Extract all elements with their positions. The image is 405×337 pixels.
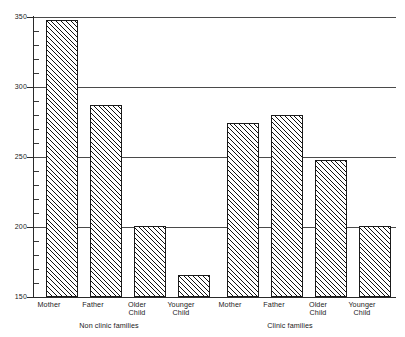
y-tick-label-wrap-250: 250 (0, 153, 27, 160)
y-tick-label-wrap-200: 200 (0, 223, 27, 230)
y-tick-label-250: 250 (3, 153, 27, 160)
x-label-clinic-younger-child: YoungerChild (337, 301, 387, 318)
y-tick-label-150: 150 (3, 293, 27, 300)
y-tick-label-wrap-300: 300 (0, 83, 27, 90)
x-label-clinic-father: Father (249, 301, 299, 309)
bars-layer (33, 17, 396, 297)
y-tick-label-wrap-150: 150 (0, 293, 27, 300)
y-tick-label-300: 300 (3, 83, 27, 90)
x-label-nonclinic-mother: Mother (24, 301, 74, 309)
y-tick-label-200: 200 (3, 223, 27, 230)
bar-clinic-younger-child (359, 226, 391, 297)
x-axis-line (33, 297, 396, 298)
bar-chart: 350 300 250 200 150 Mother Father OlderC… (0, 0, 405, 337)
bar-clinic-mother (227, 123, 259, 297)
bar-nonclinic-father (90, 105, 122, 297)
bar-nonclinic-younger-child (178, 275, 210, 297)
y-tick-label-350: 350 (3, 13, 27, 20)
x-label-clinic-mother: Mother (205, 301, 255, 309)
bar-clinic-older-child (315, 160, 347, 297)
bar-clinic-father (271, 115, 303, 297)
x-label-nonclinic-father: Father (68, 301, 118, 309)
x-label-nonclinic-older-child: OlderChild (112, 301, 162, 318)
group-label-clinic-families: Clinic families (225, 322, 355, 330)
bar-nonclinic-older-child (134, 226, 166, 297)
bar-nonclinic-mother (46, 20, 78, 297)
x-label-clinic-older-child: OlderChild (293, 301, 343, 318)
group-label-non-clinic-families: Non clinic families (44, 322, 174, 330)
x-label-nonclinic-younger-child: YoungerChild (156, 301, 206, 318)
y-tick-major-150 (27, 297, 33, 298)
y-tick-label-wrap-350: 350 (0, 13, 27, 20)
